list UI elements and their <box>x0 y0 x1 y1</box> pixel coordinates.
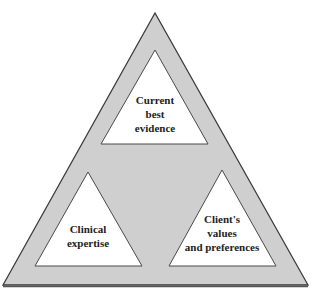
label-clinical-expertise: Clinical expertise <box>48 222 128 250</box>
label-line: Client's <box>172 212 272 226</box>
label-line: Current <box>115 93 195 107</box>
label-line: Clinical <box>48 222 128 236</box>
label-line: best <box>115 107 195 121</box>
label-line: evidence <box>115 121 195 135</box>
label-line: expertise <box>48 236 128 250</box>
label-line: and preferences <box>172 240 272 254</box>
label-line: values <box>172 226 272 240</box>
label-client-values-preferences: Client's values and preferences <box>172 212 272 254</box>
label-current-best-evidence: Current best evidence <box>115 93 195 135</box>
